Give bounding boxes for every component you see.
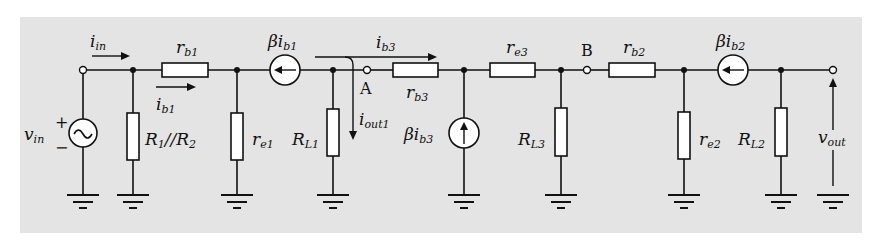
resistor-re3 bbox=[490, 63, 535, 77]
minus-sign: − bbox=[55, 138, 68, 157]
resistor-rb2 bbox=[609, 63, 655, 77]
resistor-rb3 bbox=[393, 63, 438, 77]
dependent-source-beta-ib1 bbox=[270, 55, 300, 85]
resistor-rb1 bbox=[162, 63, 208, 77]
input-terminal bbox=[80, 67, 87, 74]
node-B bbox=[584, 67, 591, 74]
node-A-label: A bbox=[359, 79, 372, 98]
R1R2-label: R1//R2 bbox=[144, 129, 196, 151]
output-terminal bbox=[830, 67, 837, 74]
plus-sign: + bbox=[55, 113, 68, 132]
node-A bbox=[364, 67, 371, 74]
node-B-label: B bbox=[581, 41, 593, 60]
dependent-source-beta-ib2 bbox=[718, 55, 748, 85]
circuit-diagram: vin + − iin R1//R2 rb1 ib1 re1 βib1 bbox=[0, 0, 877, 246]
